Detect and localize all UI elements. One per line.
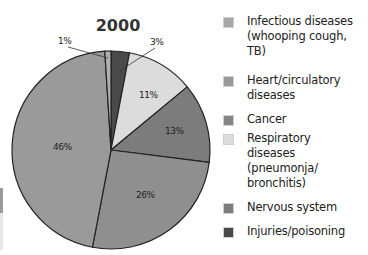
legend-item-injuries: Injuries/poisoning bbox=[223, 224, 365, 239]
legend-item-heart: Heart/circulatory diseases bbox=[223, 73, 365, 103]
swatch-icon bbox=[223, 134, 234, 145]
swatch-icon bbox=[223, 227, 234, 238]
legend-item-cancer: Cancer bbox=[223, 112, 365, 127]
swatch-icon bbox=[223, 115, 234, 126]
legend-item-respiratory: Respiratory diseases (pneumonja/ bronchi… bbox=[223, 131, 347, 191]
label-injuries: 3% bbox=[150, 37, 164, 47]
swatch-icon bbox=[223, 76, 234, 87]
swatch-icon bbox=[223, 203, 234, 214]
label-cancer: 26% bbox=[136, 190, 155, 200]
label-respiratory: 11% bbox=[139, 90, 158, 100]
legend-item-infectious: Infectious diseases (whooping cough, TB) bbox=[223, 14, 365, 59]
label-nervous: 13% bbox=[165, 126, 184, 136]
legend-item-nervous: Nervous system bbox=[223, 200, 365, 215]
pie-chart: 1% 3% 11% 13% 26% 46% bbox=[0, 0, 230, 255]
label-heart: 46% bbox=[53, 142, 72, 152]
label-infectious: 1% bbox=[58, 36, 72, 46]
swatch-icon bbox=[223, 17, 234, 28]
